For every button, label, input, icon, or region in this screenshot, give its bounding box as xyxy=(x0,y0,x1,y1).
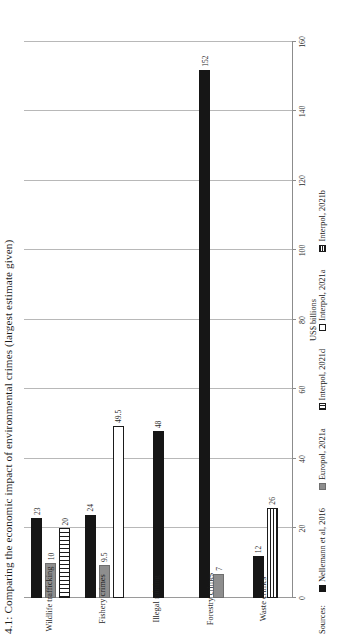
chart-plot-area: 020406080100120140160US$ billions231020W… xyxy=(24,42,292,598)
bar-wildlife-trafficking-2 xyxy=(59,529,70,599)
axis-tick-label: 160 xyxy=(298,36,307,48)
bar-value-label: 48 xyxy=(154,421,163,429)
figure-canvas: 4.1: Comparing the economic impact of en… xyxy=(0,0,353,636)
legend-swatch-icon xyxy=(319,585,326,592)
bar-value-label: 49.5 xyxy=(114,410,123,423)
gridline xyxy=(24,389,292,390)
x-axis-line xyxy=(292,42,293,598)
legend-item[interactable]: Nellemann et al, 2016 xyxy=(318,508,327,592)
bar-illegal-mining-0 xyxy=(153,431,164,598)
gridline xyxy=(24,250,292,251)
axis-title: US$ billions xyxy=(309,299,318,341)
bar-value-label: 9.5 xyxy=(100,553,109,563)
legend-swatch-icon xyxy=(319,324,326,331)
axis-tick-label: 120 xyxy=(298,175,307,187)
category-label: Fishery crimes xyxy=(98,574,107,624)
legend-item[interactable]: Interpol, 2021d xyxy=(318,349,327,411)
legend-swatch-icon xyxy=(319,245,326,252)
legend-item[interactable]: Europol, 2021a xyxy=(318,428,327,490)
axis-tick-label: 60 xyxy=(298,386,307,394)
chart-legend: Nellemann et al, 2016Europol, 2021aInter… xyxy=(318,190,327,592)
category-label: Wildlife trafficking xyxy=(45,567,54,632)
bar-forestry-crimes-1 xyxy=(213,574,224,598)
legend-swatch-icon xyxy=(319,403,326,410)
bar-fishery-crimes-3 xyxy=(113,426,124,598)
legend-item[interactable]: Interpol, 2021a xyxy=(318,270,327,331)
bar-value-label: 152 xyxy=(200,55,209,66)
bar-value-label: 20 xyxy=(60,518,69,526)
bar-value-label: 23 xyxy=(32,507,41,515)
category-label: Waste crimes xyxy=(259,577,268,622)
bar-waste-crimes-4 xyxy=(267,508,278,598)
axis-tick-label: 80 xyxy=(298,316,307,324)
legend-label: Nellemann et al, 2016 xyxy=(318,508,327,582)
bar-value-label: 7 xyxy=(214,567,223,571)
bar-value-label: 26 xyxy=(268,497,277,505)
chart-plot-inner: 020406080100120140160US$ billions231020W… xyxy=(24,42,292,598)
legend-label: Interpol, 2021d xyxy=(318,349,327,401)
gridline xyxy=(24,111,292,112)
axis-tick-label: 140 xyxy=(298,106,307,118)
category-label: Forestry crimes xyxy=(206,573,215,625)
axis-tick-label: 100 xyxy=(298,245,307,257)
bar-forestry-crimes-0 xyxy=(199,70,210,598)
bar-value-label: 10 xyxy=(46,553,55,561)
bar-wildlife-trafficking-0 xyxy=(31,518,42,598)
bar-value-label: 24 xyxy=(86,504,95,512)
legend-label: Europol, 2021a xyxy=(318,428,327,480)
gridline xyxy=(24,41,292,42)
gridline xyxy=(24,180,292,181)
legend-label: Interpol, 2021a xyxy=(318,270,327,321)
category-label: Illegal mining xyxy=(152,575,161,622)
bar-value-label: 12 xyxy=(254,546,263,554)
legend-label: Interpol, 2021b xyxy=(318,190,327,242)
legend-item[interactable]: Interpol, 2021b xyxy=(318,190,327,252)
figure-title: 4.1: Comparing the economic impact of en… xyxy=(2,240,14,634)
sources-label: Sources: xyxy=(318,605,327,634)
axis-tick-label: 0 xyxy=(298,596,307,600)
legend-swatch-icon xyxy=(319,483,326,490)
gridline xyxy=(24,319,292,320)
axis-tick-label: 20 xyxy=(298,525,307,533)
bar-fishery-crimes-0 xyxy=(85,515,96,598)
axis-tick-label: 40 xyxy=(298,455,307,463)
